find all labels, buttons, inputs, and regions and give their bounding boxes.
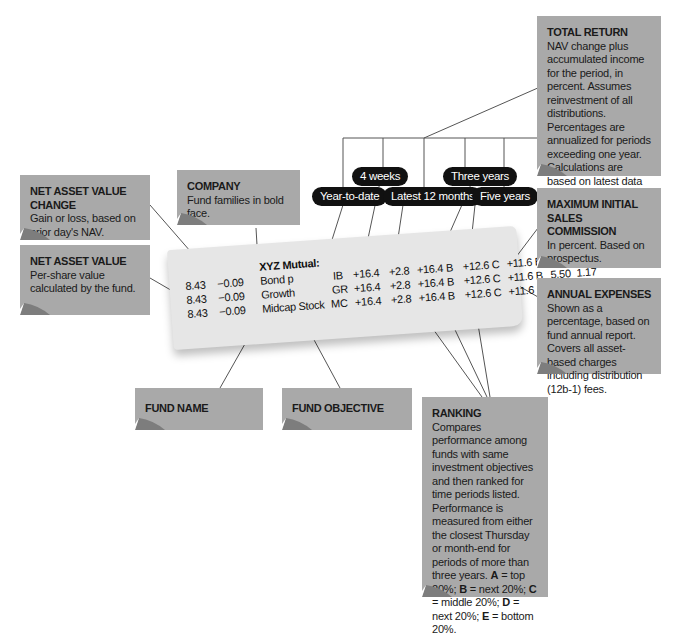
note-max-sales-commission: MAXIMUM INITIAL SALES COMMISSION In perc… bbox=[537, 188, 661, 268]
nav-change: −0.09 bbox=[219, 304, 246, 318]
note-nav-change: NET ASSET VALUE CHANGE Gain or loss, bas… bbox=[20, 175, 150, 240]
ytd-return: +16.4 bbox=[354, 280, 381, 294]
pill-latest-12-months: Latest 12 months bbox=[383, 187, 482, 206]
page-curl-icon bbox=[20, 224, 60, 240]
page-curl-icon bbox=[537, 358, 577, 374]
nav-value: 8.43 bbox=[187, 307, 208, 320]
page-curl-icon bbox=[422, 581, 462, 597]
four-week-return: +2.8 bbox=[389, 278, 410, 291]
fund-objective: IB bbox=[333, 269, 344, 282]
fund-objective: GR bbox=[332, 283, 349, 296]
note-fund-objective: FUND OBJECTIVE bbox=[282, 388, 412, 430]
nav-change: −0.09 bbox=[218, 290, 245, 304]
pill-three-years: Three years bbox=[443, 167, 517, 186]
ytd-return: +16.4 bbox=[353, 266, 380, 280]
pill-five-years: Five years bbox=[472, 187, 538, 206]
note-fund-name: FUND NAME bbox=[135, 388, 263, 430]
note-body: Compares performance among funds with sa… bbox=[432, 421, 537, 636]
note-ranking: RANKING Compares performance among funds… bbox=[422, 397, 548, 597]
note-title: RANKING bbox=[432, 407, 540, 421]
page-curl-icon bbox=[135, 414, 175, 430]
three-year-return: +12.6 C bbox=[462, 258, 499, 273]
page-curl-icon bbox=[537, 160, 577, 176]
note-nav: NET ASSET VALUE Per-share value calculat… bbox=[20, 245, 150, 315]
nav-value: 8.43 bbox=[186, 293, 207, 306]
note-total-return: TOTAL RETURN NAV change plus accumulated… bbox=[537, 16, 661, 176]
three-year-return: +12.6 C bbox=[463, 272, 500, 287]
ytd-return: +16.4 bbox=[355, 294, 382, 308]
nav-change: −0.09 bbox=[217, 276, 244, 290]
nav-value: 8.43 bbox=[185, 279, 206, 292]
four-week-return: +2.8 bbox=[389, 264, 410, 277]
note-annual-expenses: ANNUAL EXPENSES Shown as a percentage, b… bbox=[537, 278, 661, 374]
fund-name: Bond p bbox=[260, 272, 294, 286]
note-title: NET ASSET VALUE bbox=[30, 255, 142, 269]
page-curl-icon bbox=[20, 299, 60, 315]
pill-year-to-date: Year-to-date bbox=[312, 187, 387, 206]
three-year-return: +12.6 C bbox=[464, 286, 501, 301]
page-curl-icon bbox=[177, 209, 217, 225]
twelve-month-return: +16.4 B bbox=[418, 289, 455, 303]
twelve-month-return: +16.4 B bbox=[416, 261, 453, 275]
fund-name: Growth bbox=[261, 286, 295, 300]
note-company: COMPANY Fund families in bold face. bbox=[177, 170, 300, 225]
note-title: MAXIMUM INITIAL SALES COMMISSION bbox=[547, 198, 653, 239]
note-body: Shown as a percentage, based on fund ann… bbox=[547, 302, 649, 395]
four-week-return: +2.8 bbox=[390, 292, 411, 305]
note-body: Per-share value calculated by the fund. bbox=[30, 269, 135, 295]
note-title: TOTAL RETURN bbox=[547, 26, 653, 40]
twelve-month-return: +16.4 B bbox=[417, 275, 454, 289]
note-title: ANNUAL EXPENSES bbox=[547, 288, 653, 302]
pill-four-weeks: 4 weeks bbox=[352, 167, 408, 186]
fund-objective: MC bbox=[331, 297, 348, 310]
page-curl-icon bbox=[282, 414, 322, 430]
page-curl-icon bbox=[537, 252, 577, 268]
fund-name: Midcap Stock bbox=[262, 298, 325, 314]
note-title: COMPANY bbox=[187, 180, 292, 194]
note-title: NET ASSET VALUE CHANGE bbox=[30, 185, 142, 212]
